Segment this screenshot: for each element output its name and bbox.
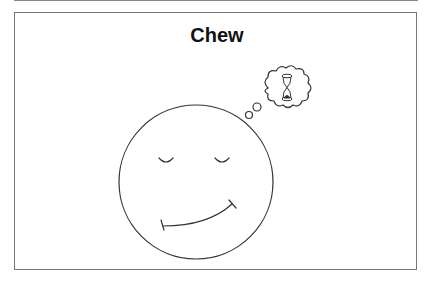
- left-closed-eye-icon: [159, 158, 173, 162]
- hourglass-icon: [282, 74, 292, 101]
- smile-mouth-icon: [163, 204, 232, 226]
- smiley-face-icon: [119, 105, 273, 259]
- chew-illustration: [0, 0, 434, 283]
- thought-bubble-icon: [246, 66, 312, 119]
- right-closed-eye-icon: [215, 158, 229, 162]
